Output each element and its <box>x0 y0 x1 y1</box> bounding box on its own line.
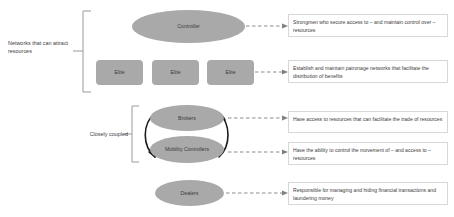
connector-brokers <box>228 115 288 120</box>
node-elite-1-label: Elite <box>114 69 124 76</box>
node-mobility-controllers[interactable]: Mobility Controllers <box>150 136 224 163</box>
node-dealers-label: Dealers <box>181 190 199 197</box>
node-mobility-controllers-label: Mobility Controllers <box>165 146 209 153</box>
description-box-dealers: Responsible for managing and hiding fina… <box>288 182 448 205</box>
node-elite-3[interactable]: Elite <box>207 60 254 85</box>
description-box-mobility-controllers: Have the ability to control the movement… <box>288 142 448 165</box>
node-dealers[interactable]: Dealers <box>155 180 224 206</box>
node-controller[interactable]: Controller <box>132 10 245 43</box>
group-label-networks: Networks that can attract resources <box>8 39 70 56</box>
node-elite-2[interactable]: Elite <box>152 60 199 85</box>
diagram-canvas: Networks that can attract resources Clos… <box>0 0 454 217</box>
node-elite-2-label: Elite <box>170 69 180 76</box>
description-box-brokers: Have access to resources that can facili… <box>288 111 448 133</box>
node-controller-label: Controller <box>177 23 200 30</box>
node-elite-3-label: Elite <box>225 69 235 76</box>
node-brokers-label: Brokers <box>178 115 196 122</box>
node-elite-1[interactable]: Elite <box>96 60 143 85</box>
description-box-elite: Establish and maintain patronage network… <box>288 60 448 83</box>
group-label-closely-coupled: Closely coupled <box>70 130 128 138</box>
connector-elite <box>255 69 288 74</box>
connector-dealers <box>226 190 288 195</box>
connector-mobility <box>228 149 288 154</box>
bracket-networks <box>73 11 91 92</box>
connector-controller <box>246 23 288 28</box>
node-brokers[interactable]: Brokers <box>150 105 224 131</box>
description-box-controller: Strongmen who secure access to – and mai… <box>288 14 448 37</box>
